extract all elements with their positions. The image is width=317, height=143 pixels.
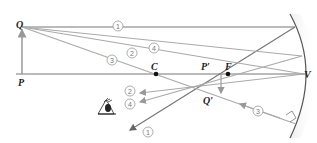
eye-icon	[98, 98, 116, 114]
ray-4-number-top: 4	[149, 43, 159, 53]
label-P: P	[18, 78, 24, 88]
ray-3-number-top: 3	[107, 55, 117, 65]
diagram-canvas: 1 4 2 3 2 4 1 3	[0, 0, 317, 143]
ray-4-reflected	[140, 56, 302, 102]
label-C: C	[151, 62, 158, 72]
ray-2-number-top: 2	[127, 48, 137, 58]
label-P-prime: P′	[201, 62, 210, 72]
center-point	[154, 72, 159, 77]
svg-text:1: 1	[116, 23, 120, 30]
label-V: V	[304, 70, 311, 80]
focus-point	[226, 72, 231, 77]
label-F: F	[225, 62, 232, 72]
ray-1-number-top: 1	[113, 21, 123, 31]
label-Q: Q	[16, 20, 23, 30]
svg-text:3: 3	[110, 57, 114, 64]
ray-diagram: 1 4 2 3 2 4 1 3	[0, 0, 317, 143]
label-Q-prime: Q′	[203, 96, 213, 106]
svg-text:3: 3	[256, 108, 260, 115]
ray-1-number-bottom: 1	[143, 127, 153, 137]
svg-text:2: 2	[130, 50, 134, 57]
svg-text:4: 4	[128, 101, 132, 108]
ray-4-number-bottom: 4	[125, 99, 135, 109]
right-angle-mark	[286, 111, 296, 122]
ray-2-number-bottom: 2	[125, 86, 135, 96]
svg-text:2: 2	[128, 88, 132, 95]
svg-text:4: 4	[152, 45, 156, 52]
svg-text:1: 1	[146, 129, 150, 136]
ray-3-number-bottom: 3	[253, 106, 263, 116]
